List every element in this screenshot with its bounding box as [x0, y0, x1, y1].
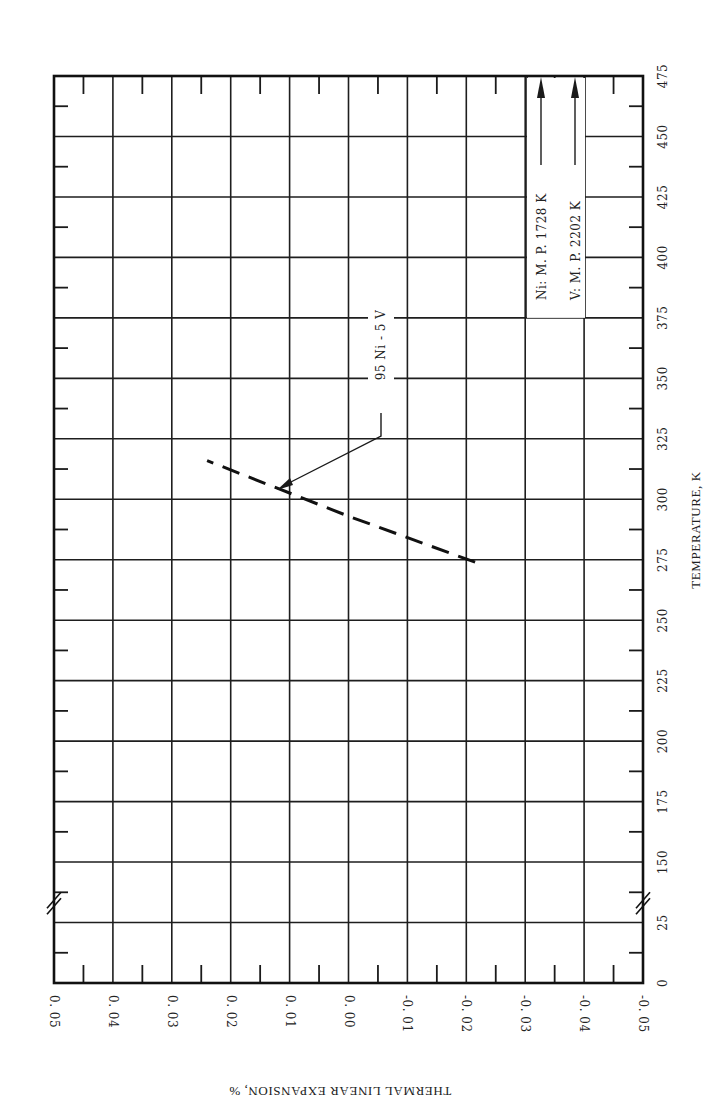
temperature-tick-label: 325 — [656, 427, 670, 451]
temperature-tick-label: 425 — [656, 185, 670, 209]
temperature-tick-label: 350 — [656, 366, 670, 390]
value-tick-label: 0. 03 — [165, 995, 179, 1028]
x-axis-title: TEMPERATURE, K — [688, 471, 703, 588]
temperature-tick-label: 275 — [656, 548, 670, 572]
temperature-tick-label: 0 — [656, 979, 670, 987]
value-tick-label: 0. 00 — [342, 995, 356, 1028]
value-tick-label: -0. 03 — [518, 995, 532, 1033]
temperature-tick-label: 475 — [656, 64, 670, 88]
value-tick-label: -0. 04 — [577, 995, 591, 1033]
temperature-tick-label: 450 — [656, 124, 670, 148]
ni-melting-point-label: Ni: M. P. 1728 K — [535, 193, 549, 300]
leader-line — [283, 413, 381, 486]
value-tick-label: 0. 05 — [47, 995, 61, 1028]
temperature-tick-label: 250 — [656, 608, 670, 632]
temperature-tick-label: 175 — [656, 789, 670, 813]
temperature-tick-label: 25 — [656, 914, 670, 930]
value-tick-label: -0. 01 — [400, 995, 414, 1033]
temperature-tick-label: 200 — [656, 729, 670, 753]
series-line — [207, 461, 475, 563]
value-tick-label: 0. 02 — [224, 995, 238, 1028]
temperature-tick-label: 400 — [656, 245, 670, 269]
y-axis-title: THERMAL LINEAR EXPANSION, % — [229, 1084, 452, 1099]
temperature-tick-label: 150 — [656, 850, 670, 874]
thermal-expansion-chart: 0. 050. 040. 030. 020. 010. 00-0. 01-0. … — [0, 0, 727, 1112]
value-tick-label: 0. 04 — [106, 995, 120, 1028]
value-tick-label: -0. 02 — [459, 995, 473, 1033]
temperature-tick-label: 300 — [656, 487, 670, 511]
value-tick-label: 0. 01 — [283, 995, 297, 1028]
v-melting-point-label: V: M. P. 2202 K — [569, 200, 583, 301]
series-95ni-5v — [207, 461, 475, 563]
value-tick-label: -0. 05 — [636, 995, 650, 1033]
leader-arrowhead-icon — [277, 478, 293, 490]
series-label: 95 Ni - 5 V — [374, 310, 388, 381]
temperature-tick-label: 375 — [656, 306, 670, 330]
temperature-tick-label: 225 — [656, 668, 670, 692]
